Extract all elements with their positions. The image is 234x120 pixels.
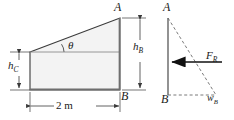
- label-height-c: hC: [8, 60, 18, 74]
- label-resultant-force: FR: [206, 50, 217, 64]
- label-height-b: hB: [133, 41, 143, 55]
- dimension-width: [30, 92, 120, 112]
- figure-canvas: A B θ hB hC 2 m A B FR wB: [0, 0, 234, 120]
- label-pressure-at-b-base: w: [207, 92, 214, 103]
- label-point-b-gate: B: [121, 90, 128, 102]
- label-point-b-pressure: B: [161, 93, 168, 105]
- label-pressure-at-b-sub: B: [214, 98, 218, 105]
- diagram-vector-layer: [0, 0, 234, 120]
- label-point-a-pressure: A: [163, 1, 170, 13]
- label-point-a-gate: A: [114, 1, 121, 13]
- gate-body: [30, 18, 120, 90]
- label-width-dimension: 2 m: [56, 100, 73, 111]
- label-resultant-force-sub: R: [213, 55, 218, 64]
- label-resultant-force-base: F: [206, 49, 213, 61]
- gate-trapezoid: [30, 18, 120, 90]
- label-height-c-sub: C: [14, 65, 19, 74]
- label-theta-angle: θ: [68, 40, 73, 51]
- label-height-b-sub: B: [139, 46, 144, 55]
- label-pressure-at-b: wB: [207, 93, 218, 106]
